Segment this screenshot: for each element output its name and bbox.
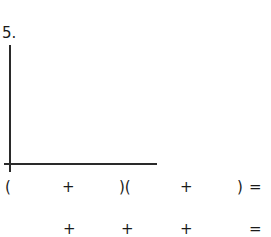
plus-sign: +: [62, 180, 75, 195]
plus-sign: +: [121, 222, 134, 237]
plus-sign: +: [63, 222, 76, 237]
equals-sign: =: [249, 180, 262, 195]
middle-parens: )(: [119, 180, 131, 195]
problem-number: 5.: [2, 26, 16, 41]
vertical-axis-line: [9, 45, 11, 172]
plus-sign: +: [180, 180, 193, 195]
close-paren: ): [237, 180, 243, 195]
horizontal-axis-line: [4, 163, 157, 165]
open-paren: (: [5, 180, 11, 195]
equals-sign: =: [249, 222, 262, 237]
plus-sign: +: [180, 222, 193, 237]
